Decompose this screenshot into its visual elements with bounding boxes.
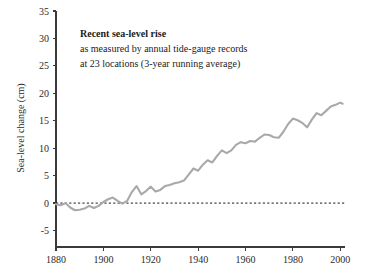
y-tick-label: 0: [44, 198, 49, 209]
chart-plot-area: -505101520253035 18801900192019401960198…: [0, 0, 367, 277]
y-tick-label: -5: [41, 225, 49, 236]
chart-annotation-title: Recent sea-level rise: [80, 28, 167, 39]
y-tick-label: 20: [39, 88, 49, 99]
chart-annotation-line-3: at 23 locations (3-year running average): [80, 58, 240, 70]
x-tick-label: 1980: [283, 254, 303, 265]
x-tick-label: 1900: [93, 254, 113, 265]
y-tick-label: 5: [44, 170, 49, 181]
chart-annotation-line-2: as measured by annual tide-gauge records: [80, 43, 248, 54]
y-axis-tick-labels: -505101520253035: [39, 6, 56, 237]
x-tick-label: 1960: [236, 254, 256, 265]
x-tick-label: 2000: [330, 254, 350, 265]
y-tick-label: 25: [39, 60, 49, 71]
x-tick-label: 1920: [141, 254, 161, 265]
y-axis-title: Sea-level change (cm): [15, 83, 27, 172]
y-tick-label: 15: [39, 115, 49, 126]
x-tick-label: 1880: [46, 254, 66, 265]
x-axis-tick-labels: 1880190019201940196019802000: [46, 247, 350, 265]
x-tick-label: 1940: [188, 254, 208, 265]
y-tick-label: 35: [39, 6, 49, 17]
sea-level-series-line: [56, 103, 343, 211]
y-tick-label: 30: [39, 33, 49, 44]
y-tick-label: 10: [39, 143, 49, 154]
sea-level-rise-chart: -505101520253035 18801900192019401960198…: [0, 0, 367, 277]
